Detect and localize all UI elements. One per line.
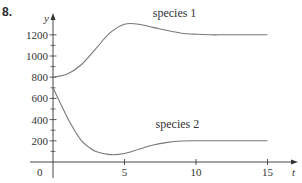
x-axis-label: t: [292, 166, 296, 178]
species-1-curve: [53, 23, 268, 77]
origin-label: 0: [37, 166, 43, 178]
axis-ticks: [50, 35, 268, 165]
species-2-label: species 2: [156, 117, 200, 131]
y-tick-label: 800: [32, 71, 49, 83]
species-1-label: species 1: [153, 6, 197, 20]
y-axis-label: y: [43, 12, 49, 24]
y-tick-label: 600: [32, 92, 49, 104]
y-tick-label: 1000: [26, 50, 49, 62]
labels: ty05101520040060080010001200species 1spe…: [26, 6, 296, 178]
x-tick-label: 15: [262, 166, 274, 178]
y-tick-label: 1200: [26, 29, 49, 41]
axes: [30, 13, 298, 178]
x-tick-label: 10: [191, 166, 203, 178]
y-tick-label: 200: [32, 135, 49, 147]
y-tick-label: 400: [32, 114, 49, 126]
x-tick-label: 5: [122, 166, 128, 178]
y-axis-arrow-icon: [51, 13, 56, 20]
population-chart: ty05101520040060080010001200species 1spe…: [0, 0, 302, 183]
x-axis-arrow-icon: [291, 160, 298, 165]
curves: [53, 23, 268, 154]
